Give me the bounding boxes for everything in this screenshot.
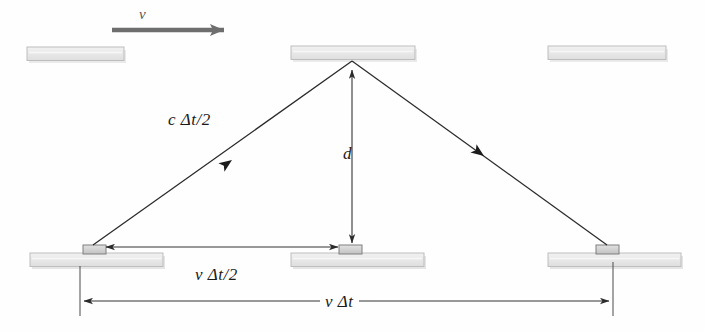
top-mirror-right	[548, 46, 668, 62]
mirror-separation-label: d	[343, 144, 352, 164]
figure-canvas	[0, 0, 705, 332]
light-source-box	[83, 245, 106, 254]
ray-downward	[352, 61, 607, 245]
light-path-label: c Δt/2	[168, 110, 211, 130]
light-detector-box	[596, 245, 619, 254]
bottom-mirror-right	[548, 253, 683, 269]
ray-upward	[93, 61, 352, 245]
velocity-label: v	[139, 6, 146, 23]
bottom-mirror-left	[30, 253, 165, 269]
light-clock-figure: v c Δt/2 d v Δt/2 v Δt	[0, 0, 705, 332]
top-mirror-middle	[291, 46, 417, 62]
bottom-mirror-middle	[291, 253, 426, 269]
top-mirror-left	[27, 47, 126, 63]
total-displacement-label: v Δt	[320, 292, 359, 312]
half-displacement-label: v Δt/2	[195, 265, 238, 285]
light-midpoint-box	[339, 245, 362, 254]
